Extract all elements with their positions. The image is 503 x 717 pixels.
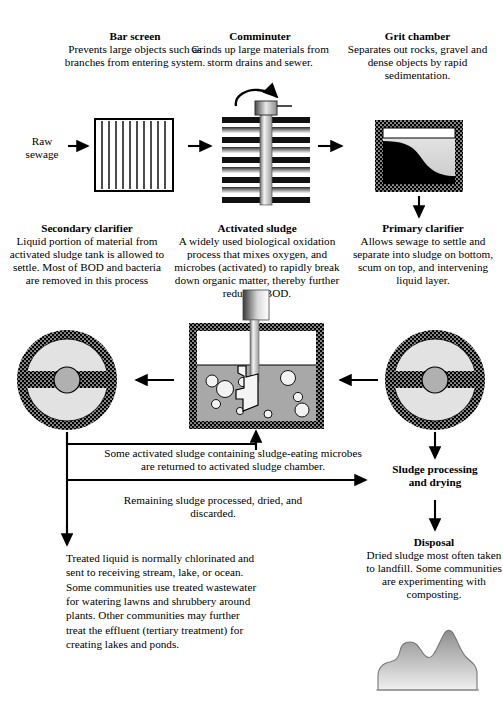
landfill-mound-graphic	[376, 630, 479, 690]
grit-chamber-graphic	[375, 120, 463, 217]
comminuter-blades-right	[272, 117, 310, 203]
primary-clarifier-hub	[422, 367, 448, 393]
activated-sludge-tank-graphic	[189, 290, 324, 450]
primary-clarifier-graphic	[385, 330, 485, 430]
aerator-motor	[243, 290, 269, 320]
diagram-graphics	[0, 0, 503, 717]
secondary-clarifier-hub	[54, 367, 80, 393]
comminuter-shaft	[260, 110, 272, 205]
comminuter-cap	[255, 101, 277, 115]
aerator-shaft	[250, 320, 259, 382]
return-sludge-path	[67, 432, 256, 450]
secondary-clarifier-graphic	[17, 330, 117, 430]
wastewater-treatment-diagram: Bar screen Prevents large objects such a…	[0, 0, 503, 717]
bar-screen-graphic	[95, 119, 173, 191]
comminuter-graphic	[222, 90, 310, 205]
comminuter-blades-left	[222, 117, 260, 203]
